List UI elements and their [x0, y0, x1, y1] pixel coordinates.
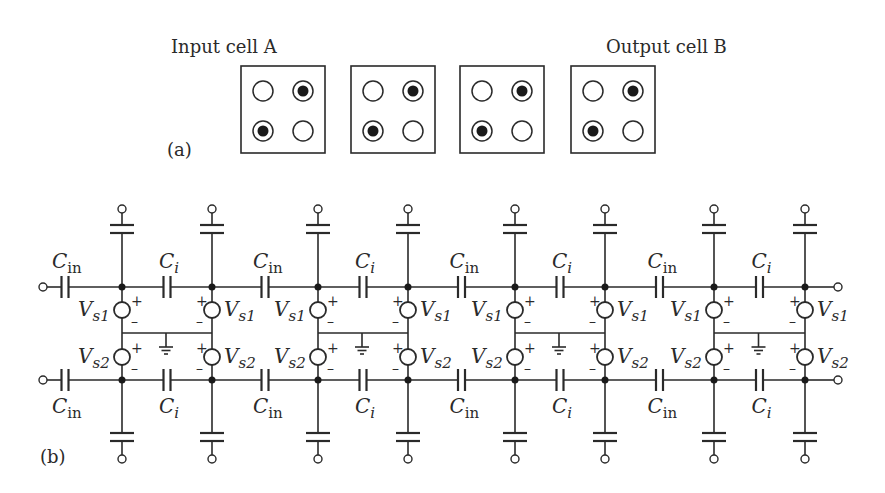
qca-cell-1 [241, 66, 325, 153]
output-cell-label: Output cell B [606, 36, 727, 57]
capacitor-cin-label: Cin [450, 249, 480, 277]
capacitor-cin-label: Cin [52, 249, 82, 277]
panel-label-a: (a) [167, 139, 192, 160]
svg-text:Ci: Ci [355, 249, 375, 277]
polarity-plus: + [524, 340, 536, 356]
voltage-source-vs2-icon [507, 349, 523, 365]
polarity-minus: – [196, 313, 203, 329]
junction-node [209, 284, 216, 291]
source-vs1-label: Vs1 [78, 297, 110, 325]
svg-text:Vs1: Vs1 [274, 297, 306, 325]
quantum-dot-empty [363, 81, 383, 101]
cell-border [241, 66, 325, 153]
svg-text:Vs1: Vs1 [670, 297, 702, 325]
svg-text:Vs2: Vs2 [471, 344, 503, 372]
input-terminal [39, 376, 47, 384]
polarity-minus: – [131, 313, 138, 329]
polarity-plus: + [789, 340, 801, 356]
source-vs1-label: Vs1 [817, 297, 849, 325]
source-vs2-label: Vs2 [817, 344, 849, 372]
svg-text:Vs2: Vs2 [420, 344, 452, 372]
junction-node [512, 377, 519, 384]
clock-terminal [404, 455, 412, 463]
svg-text:Cin: Cin [648, 394, 678, 422]
source-vs1-label: Vs1 [420, 297, 452, 325]
source-vs2-label: Vs2 [78, 344, 110, 372]
junction-node [711, 377, 718, 384]
input-cell-label: Input cell A [171, 36, 278, 57]
svg-text:Vs2: Vs2 [274, 344, 306, 372]
clock-terminal [511, 205, 519, 213]
polarity-plus: + [131, 293, 143, 309]
polarity-minus: – [789, 313, 796, 329]
source-vs1-label: Vs1 [670, 297, 702, 325]
polarity-minus: – [723, 360, 730, 376]
clock-terminal [710, 455, 718, 463]
cell-border [460, 66, 544, 153]
svg-text:Vs2: Vs2 [78, 344, 110, 372]
capacitor-ci-label: Ci [552, 249, 572, 277]
junction-node [119, 284, 126, 291]
cell-border [351, 66, 435, 153]
polarity-minus: – [392, 360, 399, 376]
capacitor-cin-label: Cin [253, 394, 283, 422]
clock-terminal [601, 455, 609, 463]
polarity-plus: + [196, 293, 208, 309]
voltage-source-vs1-icon [310, 302, 326, 318]
svg-text:Vs1: Vs1 [471, 297, 503, 325]
polarity-plus: + [589, 340, 601, 356]
qca-cell-4 [571, 66, 655, 153]
polarity-plus: + [589, 293, 601, 309]
svg-text:Cin: Cin [52, 394, 82, 422]
junction-node [602, 377, 609, 384]
polarity-plus: + [524, 293, 536, 309]
svg-text:Ci: Ci [552, 249, 572, 277]
polarity-plus: + [723, 293, 735, 309]
quantum-dot-empty [512, 121, 532, 141]
junction-node [315, 284, 322, 291]
polarity-minus: – [196, 360, 203, 376]
clock-terminal [314, 455, 322, 463]
bottom-rail [39, 369, 842, 391]
svg-text:Cin: Cin [253, 249, 283, 277]
voltage-source-vs2-icon [310, 349, 326, 365]
polarity-plus: + [196, 340, 208, 356]
polarity-minus: – [524, 313, 531, 329]
part-a-cells: Input cell AOutput cell B(a) [167, 36, 727, 160]
capacitor-ci-label: Ci [159, 394, 179, 422]
capacitor-cin-label: Cin [450, 394, 480, 422]
polarity-minus: – [327, 313, 334, 329]
capacitor-ci-label: Ci [355, 394, 375, 422]
svg-text:Vs2: Vs2 [224, 344, 256, 372]
svg-text:Cin: Cin [52, 249, 82, 277]
clock-terminal [801, 205, 809, 213]
junction-node [119, 377, 126, 384]
polarity-minus: – [589, 313, 596, 329]
polarity-minus: – [723, 313, 730, 329]
source-vs1-label: Vs1 [224, 297, 256, 325]
capacitor-cin-label: Cin [253, 249, 283, 277]
svg-text:Vs1: Vs1 [420, 297, 452, 325]
polarity-plus: + [327, 340, 339, 356]
node-column: +–+– [306, 205, 339, 463]
svg-text:Cin: Cin [450, 394, 480, 422]
clock-terminal [208, 455, 216, 463]
top-rail [39, 276, 842, 298]
source-vs2-label: Vs2 [617, 344, 649, 372]
capacitor-ci-label: Ci [159, 249, 179, 277]
voltage-source-vs1-icon [706, 302, 722, 318]
part-b-circuit: (b)+–+–+–+–+–+–+–+–+–+–+–+–+–+–+–+– [39, 205, 842, 467]
svg-text:Ci: Ci [355, 394, 375, 422]
source-vs1-label: Vs1 [471, 297, 503, 325]
svg-text:Cin: Cin [253, 394, 283, 422]
node-column: +–+– [110, 205, 143, 463]
polarity-plus: + [789, 293, 801, 309]
svg-text:Vs1: Vs1 [224, 297, 256, 325]
quantum-dot-empty [583, 81, 603, 101]
voltage-source-vs2-icon [706, 349, 722, 365]
node-column: +–+– [702, 205, 735, 463]
junction-node [512, 284, 519, 291]
svg-text:Cin: Cin [648, 249, 678, 277]
electron-icon [368, 126, 379, 137]
polarity-minus: – [524, 360, 531, 376]
